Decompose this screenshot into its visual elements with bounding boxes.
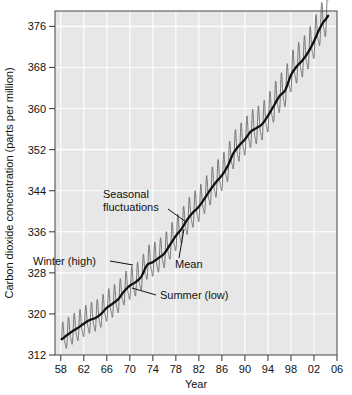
x-tick-label: 78 bbox=[170, 363, 182, 375]
x-axis-title: Year bbox=[185, 378, 208, 390]
y-tick-label: 344 bbox=[28, 185, 46, 197]
y-axis-ticks: 312320328336344352360368376 bbox=[28, 20, 55, 361]
y-tick-label: 328 bbox=[28, 267, 46, 279]
x-tick-label: 62 bbox=[78, 363, 90, 375]
x-tick-label: 86 bbox=[216, 363, 228, 375]
x-tick-label: 82 bbox=[193, 363, 205, 375]
annotation-mean-label: Mean bbox=[175, 258, 203, 270]
x-tick-label: 90 bbox=[239, 363, 251, 375]
x-tick-label: 98 bbox=[285, 363, 297, 375]
x-tick-label: 74 bbox=[147, 363, 159, 375]
x-tick-label: 70 bbox=[124, 363, 136, 375]
co2-chart-figure: 312320328336344352360368376 586266707478… bbox=[0, 0, 352, 395]
x-tick-label: 06 bbox=[331, 363, 343, 375]
y-axis-title: Carbon dioxide concentration (parts per … bbox=[3, 67, 15, 298]
y-tick-label: 376 bbox=[28, 20, 46, 32]
y-tick-label: 336 bbox=[28, 226, 46, 238]
x-tick-label: 66 bbox=[101, 363, 113, 375]
y-tick-label: 360 bbox=[28, 103, 46, 115]
annotation-winter-label: Winter (high) bbox=[33, 255, 96, 267]
annotation-seasonal-line2: fluctuations bbox=[103, 201, 159, 213]
plot-background bbox=[55, 11, 337, 355]
annotation-summer-label: Summer (low) bbox=[160, 289, 228, 301]
y-tick-label: 312 bbox=[28, 349, 46, 361]
y-tick-label: 320 bbox=[28, 308, 46, 320]
y-tick-label: 352 bbox=[28, 144, 46, 156]
y-tick-label: 368 bbox=[28, 61, 46, 73]
annotation-seasonal-line1: Seasonal bbox=[103, 188, 149, 200]
x-axis-ticks: 58626670747882869094980206 bbox=[55, 355, 343, 375]
x-tick-label: 02 bbox=[308, 363, 320, 375]
keeling-curve-chart: 312320328336344352360368376 586266707478… bbox=[0, 0, 352, 395]
x-tick-label: 94 bbox=[262, 363, 274, 375]
x-tick-label: 58 bbox=[55, 363, 67, 375]
